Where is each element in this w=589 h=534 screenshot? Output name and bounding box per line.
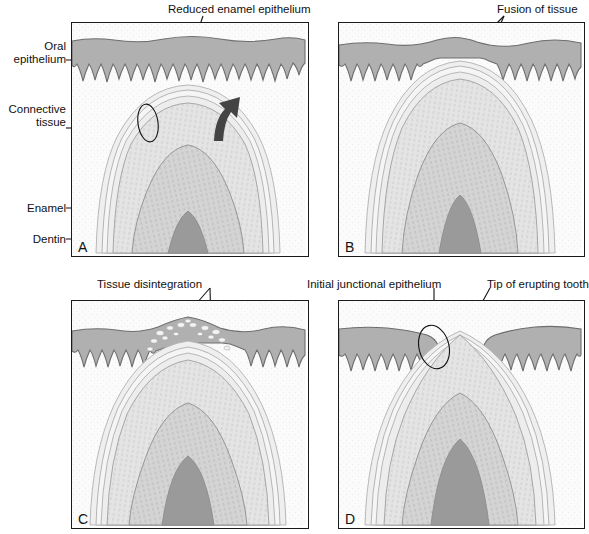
panel-letter-b: B xyxy=(345,240,354,254)
panel-b: B xyxy=(338,22,585,257)
callout-tissue-disintegration: Tissue disintegration xyxy=(97,278,202,291)
side-label-dentin: Dentin xyxy=(2,233,66,246)
panel-a-illustration xyxy=(72,23,305,253)
panel-d: D xyxy=(338,300,585,529)
panel-c: C xyxy=(71,300,309,529)
callout-initial-junctional-epithelium: Initial junctional epithelium xyxy=(307,278,441,291)
panel-letter-d: D xyxy=(345,512,355,526)
panel-letter-a: A xyxy=(78,240,87,254)
callout-tip-of-erupting-tooth: Tip of erupting tooth xyxy=(487,278,589,291)
panel-b-illustration xyxy=(339,23,581,253)
panel-letter-c: C xyxy=(78,512,88,526)
side-label-enamel: Enamel xyxy=(2,202,66,215)
side-label-connective-tissue: Connective tissue xyxy=(2,103,66,129)
panel-a: A xyxy=(71,22,309,257)
side-label-oral-epithelium: Oral epithelium xyxy=(2,40,66,66)
figure-root: Oral epithelium Connective tissue Enamel… xyxy=(0,0,589,534)
panel-c-illustration xyxy=(72,301,305,525)
panel-d-illustration xyxy=(339,301,581,525)
callout-fusion-of-tissue: Fusion of tissue xyxy=(497,3,578,16)
callout-reduced-enamel-epithelium: Reduced enamel epithelium xyxy=(168,3,311,16)
